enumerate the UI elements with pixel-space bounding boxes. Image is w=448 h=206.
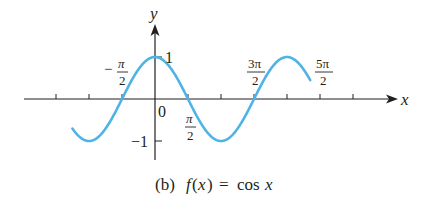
svg-text:2: 2 bbox=[252, 73, 259, 88]
svg-text:x: x bbox=[264, 175, 273, 194]
svg-text:=: = bbox=[219, 175, 229, 194]
svg-text:2: 2 bbox=[119, 73, 126, 88]
svg-text:2: 2 bbox=[187, 128, 194, 143]
y-axis-label: y bbox=[148, 4, 158, 23]
svg-text:): ) bbox=[207, 175, 213, 194]
svg-text:5π: 5π bbox=[316, 56, 330, 71]
x-ticks bbox=[56, 94, 353, 99]
svg-text:π: π bbox=[118, 56, 125, 71]
y-tick-label-1: 1 bbox=[165, 49, 173, 66]
svg-text:2: 2 bbox=[320, 73, 327, 88]
origin-label: 0 bbox=[158, 103, 166, 120]
svg-text:(b): (b) bbox=[155, 175, 175, 194]
x-tick-label-5pi-over-2: 5π 2 bbox=[315, 56, 333, 88]
y-tick-label-neg1: −1 bbox=[131, 133, 148, 150]
x-axis-label: x bbox=[400, 90, 409, 109]
x-tick-label-neg-pi-over-2: − π 2 bbox=[104, 56, 128, 88]
caption: (b) f ( x ) = cos x bbox=[155, 175, 273, 194]
cosine-graph: y x 1 −1 0 − π 2 π 2 3π 2 5π 2 (b) f ( x… bbox=[0, 0, 448, 206]
svg-text:−: − bbox=[104, 61, 112, 77]
svg-text:3π: 3π bbox=[248, 56, 262, 71]
svg-text:cos: cos bbox=[237, 175, 260, 194]
svg-text:π: π bbox=[186, 111, 193, 126]
x-tick-label-pi-over-2: π 2 bbox=[185, 111, 196, 143]
svg-text:x: x bbox=[197, 175, 206, 194]
